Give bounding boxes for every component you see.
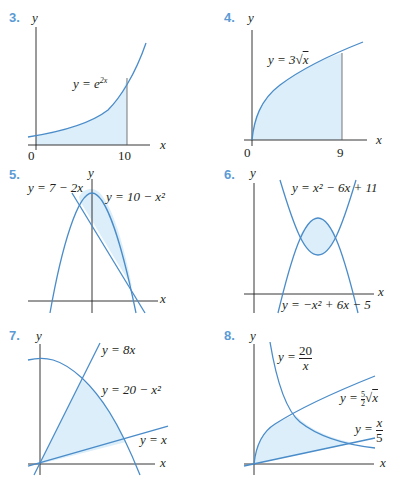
graph-6 (200, 155, 398, 315)
x-axis-label: x (160, 455, 166, 471)
equation-label-sqrt: y = 5 2 √x (340, 390, 378, 408)
equation-label-linear: y = x 5 (355, 416, 383, 445)
equation-label-reciprocal: y = 20 x (278, 344, 312, 373)
equation-label: y = e2x (73, 76, 107, 92)
panel-8: 8. y y = 20 x y = 5 2 √x y = x 5 x (200, 320, 398, 483)
equation-label-upper: y = x² − 6x + 11 (292, 180, 378, 196)
equation-label-parabola: y = 10 − x² (106, 189, 165, 205)
equation-label: y = 3√x (268, 52, 308, 68)
x-axis-label: x (376, 132, 382, 148)
equation-label-lower: y = −x² + 6x − 5 (282, 297, 371, 313)
equation-label-parabola: y = 20 − x² (102, 382, 161, 398)
graph-5 (0, 155, 200, 315)
x-axis-label: x (160, 137, 166, 153)
panel-3: 3. y y = e2x x 0 10 (0, 0, 200, 160)
equation-label-line: y = 7 − 2x (28, 180, 83, 196)
equation-label-8x: y = 8x (102, 342, 135, 358)
x-axis-label: x (378, 284, 384, 300)
equation-label-x: y = x (140, 432, 167, 448)
panel-6: 6. y y = x² − 6x + 11 y = −x² + 6x − 5 x (200, 155, 398, 315)
x-axis-label: x (160, 291, 166, 307)
graph-7 (0, 320, 200, 483)
panel-7: 7. y y = 8x y = 20 − x² y = x x (0, 320, 200, 483)
x-axis-label: x (380, 455, 386, 471)
panel-4: 4. y y = 3√x x 0 9 (200, 0, 398, 160)
graph-4 (200, 0, 398, 160)
panel-5: 5. y y = 7 − 2x y = 10 − x² x (0, 155, 200, 315)
